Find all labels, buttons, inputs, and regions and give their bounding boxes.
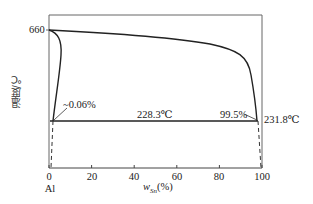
plot-frame (49, 15, 262, 168)
x-axis-label-unit: (%) (157, 181, 173, 192)
left-dashed-solvus (51, 121, 53, 168)
annotation-sn-melting-temp: 231.8℃ (264, 115, 299, 126)
x-axis (49, 165, 262, 168)
annotation-eutectic-temp: 228.3℃ (137, 110, 172, 121)
x-sub-label-al: Al (45, 184, 56, 195)
al-solvus-curve (49, 30, 61, 121)
x-tick-label-60: 60 (172, 172, 183, 183)
right-dashed-solvus (258, 121, 261, 168)
x-tick-label-100: 100 (254, 172, 270, 183)
y-axis-label: 温度/℃ (12, 74, 22, 108)
x-tick-label-40: 40 (129, 172, 140, 183)
annotation-right-composition: 99.5% (220, 110, 247, 121)
annotation-left-composition: ~0.06% (63, 100, 96, 111)
x-tick-label-80: 80 (214, 172, 225, 183)
x-axis-label-sub: Sn (150, 187, 157, 195)
x-axis-label-main: w (143, 181, 150, 192)
y-tick-label-660: 660 (29, 25, 45, 36)
x-axis-label: wSn(%) (143, 182, 173, 195)
x-tick-label-20: 20 (87, 172, 98, 183)
x-tick-label-0: 0 (46, 172, 51, 183)
